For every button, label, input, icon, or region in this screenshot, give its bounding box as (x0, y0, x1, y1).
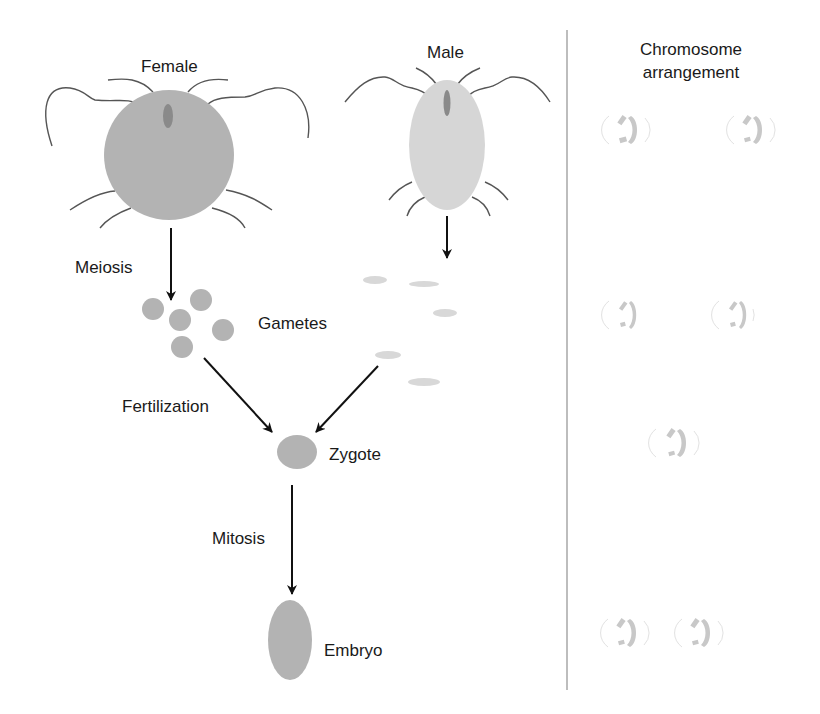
gametes-label: Gametes (258, 315, 327, 332)
chromosome-set-female-icon (602, 115, 651, 144)
female-fertilization-arrow (204, 358, 272, 432)
embryo-label: Embryo (324, 642, 383, 659)
male-gametes-icon (363, 276, 457, 386)
male-label: Male (427, 44, 464, 61)
zygote-label: Zygote (329, 446, 381, 463)
chromosome-set-female-gamete-icon (602, 301, 637, 329)
chromosome-set-embryo-cell-2-icon (675, 618, 724, 647)
male-organism-icon (345, 68, 550, 216)
fertilization-label: Fertilization (122, 398, 209, 415)
diagram-artwork (0, 0, 820, 714)
chromosome-set-male-icon (727, 115, 776, 144)
chromosome-set-embryo-cell-1-icon (601, 618, 650, 647)
mitosis-label: Mitosis (212, 530, 265, 547)
chromosome-arrangement-heading: Chromosome arrangement (626, 38, 756, 84)
embryo-icon (268, 600, 312, 680)
female-organism-icon (46, 79, 309, 228)
chromosome-sets (601, 115, 776, 647)
chromosome-set-zygote-icon (649, 428, 700, 457)
reproduction-diagram: Female Male Chromosome arrangement Meios… (0, 0, 820, 714)
chromosome-set-male-gamete-icon (712, 301, 755, 329)
female-gametes-icon (142, 289, 234, 358)
zygote-icon (277, 435, 317, 469)
male-fertilization-arrow (316, 366, 378, 432)
female-label: Female (141, 58, 198, 75)
meiosis-label: Meiosis (75, 259, 133, 276)
